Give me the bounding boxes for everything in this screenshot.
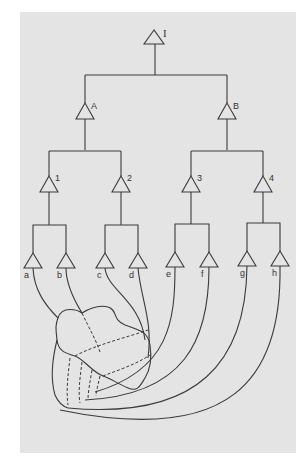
triangle-icon <box>271 251 289 266</box>
leaf-label-d: d <box>129 270 134 280</box>
leaf-label-g: g <box>240 268 245 278</box>
triangle-icon <box>96 253 114 268</box>
hierarchy-diagram: I A B 1 2 3 4 <box>0 0 307 463</box>
node-label-4: 4 <box>269 173 274 183</box>
node-label-A: A <box>91 101 97 111</box>
node-1: 1 <box>40 173 60 225</box>
triangle-icon <box>238 251 256 266</box>
node-label-1: 1 <box>55 173 60 183</box>
leaf-label-h: h <box>272 268 277 278</box>
node-label-root: I <box>163 27 167 39</box>
leaf-b: b <box>57 253 75 280</box>
triangle-icon <box>200 252 218 267</box>
triangle-icon <box>166 252 184 267</box>
triangle-icon <box>57 253 75 268</box>
blob-shape <box>52 306 151 408</box>
node-label-2: 2 <box>127 173 132 183</box>
leaf-label-a: a <box>24 270 29 280</box>
node-A: A <box>76 101 97 150</box>
node-3: 3 <box>182 173 202 224</box>
node-label-3: 3 <box>197 173 202 183</box>
leaf-label-f: f <box>201 269 204 279</box>
triangle-icon <box>129 253 147 268</box>
node-4: 4 <box>254 173 274 223</box>
leaf-a: a <box>24 253 42 280</box>
leaf-label-b: b <box>57 270 62 280</box>
node-root: I <box>144 27 167 75</box>
node-B: B <box>218 101 239 150</box>
node-2: 2 <box>112 173 132 225</box>
leaf-c: c <box>96 253 114 280</box>
leaf-label-c: c <box>97 270 102 280</box>
triangle-icon <box>144 30 164 44</box>
node-label-B: B <box>233 101 239 111</box>
leaf-label-e: e <box>166 269 171 279</box>
triangle-icon <box>24 253 42 268</box>
connection-fibers <box>33 266 280 419</box>
leaf-d: d <box>129 253 147 280</box>
